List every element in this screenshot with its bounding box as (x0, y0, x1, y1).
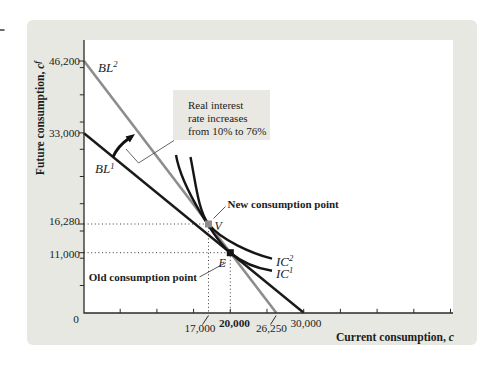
ytick-16280: 16,280 (49, 215, 80, 227)
consumption-chart: Real interest rate increases from 10% to… (0, 0, 500, 368)
ytick-11000: 11,000 (49, 248, 80, 260)
new-point-caption: New consumption point (228, 198, 340, 210)
ytick-46200: 46,200 (49, 55, 80, 67)
x-axis-title: Current consumption, c (336, 331, 454, 344)
y-axis-title: Future consumption, cf (32, 60, 47, 176)
new-point-marker (205, 221, 212, 228)
ytick-33000: 33,000 (49, 127, 80, 139)
callout-line-2: rate increases (188, 112, 248, 124)
xtick-26250: 26,250 (256, 322, 287, 334)
old-point-caption: Old consumption point (89, 271, 198, 283)
xtick-17000: 17,000 (184, 322, 215, 334)
old-point-letter: E (218, 256, 227, 270)
origin-label: 0 (73, 313, 79, 325)
old-point-marker (227, 249, 234, 256)
xtick-30000: 30,000 (290, 317, 321, 329)
figure-page: Real interest rate increases from 10% to… (0, 0, 500, 368)
page-margin-mark (0, 29, 5, 31)
callout-line-1: Real interest (188, 99, 243, 111)
callout-line-3: from 10% to 76% (188, 125, 267, 137)
xtick-20000: 20,000 (219, 317, 250, 329)
